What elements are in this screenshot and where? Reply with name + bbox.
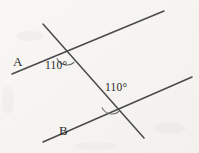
geometry-figure: A B 110° 110°	[0, 0, 199, 153]
angle-measure-bottom: 110°	[105, 82, 127, 94]
angle-measure-top: 110°	[45, 60, 67, 72]
line-label-a: A	[13, 55, 22, 68]
line-label-b: B	[59, 124, 68, 137]
diagram-canvas	[0, 0, 199, 153]
